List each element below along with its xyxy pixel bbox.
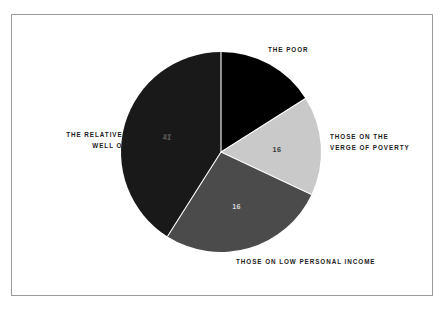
pie-chart: 16 16 27 41 — [0, 0, 446, 314]
pie-value-verge-of-poverty: 16 — [232, 202, 241, 211]
pie-callout-low-personal-income: THOSE ON LOW PERSONAL INCOME — [236, 257, 375, 268]
pie-callout-relatively-well-off: THE RELATIVELY WELL OFF — [32, 130, 132, 151]
pie-value-relatively-well-off: 41 — [163, 133, 172, 142]
pie-value-the-poor: 16 — [273, 145, 282, 154]
pie-callout-the-poor: THE POOR — [268, 45, 309, 56]
pie-callout-verge-of-poverty: THOSE ON THE VERGE OF POVERTY — [330, 132, 410, 153]
